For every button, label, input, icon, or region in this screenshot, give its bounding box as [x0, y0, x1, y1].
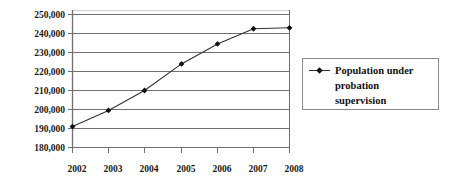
y-axis-labels: 250,000 240,000 230,000 220,000 210,000 …	[34, 10, 65, 153]
x-axis-label: 2004	[140, 164, 159, 174]
x-axis-label: 2006	[213, 164, 232, 174]
legend: Population under probation supervision	[303, 59, 439, 110]
y-axis-label: 250,000	[34, 10, 65, 20]
series-markers	[70, 25, 293, 130]
legend-label-line2: probation	[335, 80, 379, 91]
y-axis-label: 230,000	[34, 48, 65, 58]
y-axis-label: 180,000	[34, 143, 65, 153]
data-point-2007	[251, 26, 257, 32]
x-axis-label: 2002	[68, 164, 87, 174]
data-point-2006	[215, 41, 221, 47]
y-axis-label: 200,000	[34, 105, 65, 115]
y-axis-label: 210,000	[34, 86, 65, 96]
gridlines	[72, 15, 290, 148]
x-axis-labels: 2002 2003 2004 2005 2006 2007 2008	[68, 164, 304, 174]
x-axis-label: 2003	[104, 164, 123, 174]
line-chart: 250,000 240,000 230,000 220,000 210,000 …	[0, 0, 449, 184]
x-axis-label: 2008	[285, 164, 304, 174]
data-point-2003	[106, 108, 112, 114]
series-line	[73, 28, 290, 127]
x-tick-marks	[73, 148, 290, 153]
chart-canvas: 250,000 240,000 230,000 220,000 210,000 …	[0, 0, 449, 184]
legend-label-line3: supervision	[335, 95, 387, 106]
x-axis-label: 2005	[177, 164, 196, 174]
data-series-population-under-probation-supervision	[70, 25, 293, 130]
y-axis-label: 240,000	[34, 29, 65, 39]
x-axis-label: 2007	[249, 164, 268, 174]
y-axis-label: 220,000	[34, 67, 65, 77]
data-point-2008	[287, 25, 293, 31]
legend-label-line1: Population under	[335, 65, 414, 76]
y-axis-label: 190,000	[34, 124, 65, 134]
